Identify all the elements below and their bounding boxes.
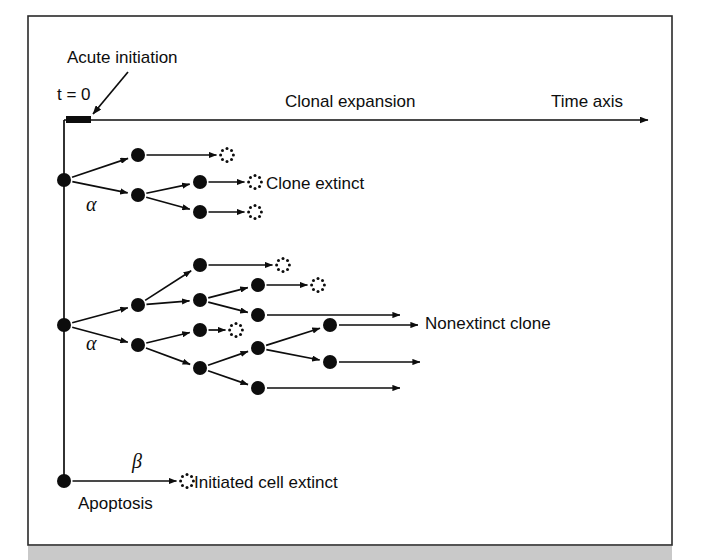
- extinct-dot: [226, 160, 229, 163]
- extinct-dot: [254, 204, 257, 207]
- extinct-dot: [258, 206, 261, 209]
- extinct-dot: [232, 154, 235, 157]
- extinct-dot: [230, 324, 233, 327]
- label-clone-extinct: Clone extinct: [266, 174, 365, 193]
- extinct-dot: [282, 257, 285, 260]
- cell-node: [251, 381, 265, 395]
- cell-node: [57, 173, 71, 187]
- cell-node: [193, 175, 207, 189]
- extinct-dot: [286, 268, 289, 271]
- cell-node: [193, 323, 207, 337]
- label-acute-initiation: Acute initiation: [67, 48, 178, 67]
- extinct-dot: [258, 215, 261, 218]
- extinct-dot: [190, 484, 193, 487]
- extinct-dot: [226, 147, 229, 150]
- cell-node: [251, 278, 265, 292]
- figure-root: Acute initiation t = 0 Clonal expansion …: [0, 0, 702, 560]
- extinct-dot: [235, 322, 238, 325]
- extinct-dot: [221, 149, 224, 152]
- extinct-dot: [258, 176, 261, 179]
- extinct-dot: [247, 181, 250, 184]
- extinct-dot: [219, 154, 222, 157]
- extinct-dot: [254, 174, 257, 177]
- label-apoptosis: Apoptosis: [78, 494, 153, 513]
- extinct-dot: [260, 181, 263, 184]
- extinct-dot: [321, 288, 324, 291]
- cell-node: [193, 205, 207, 219]
- extinct-dot: [312, 288, 315, 291]
- extinct-dot: [239, 324, 242, 327]
- acute-initiation-tick: [66, 116, 91, 123]
- extinct-dot: [310, 284, 313, 287]
- extinct-dot: [258, 185, 261, 188]
- extinct-dot: [254, 217, 257, 220]
- extinct-dot: [275, 264, 278, 267]
- extinct-dot: [317, 277, 320, 280]
- extinct-dot: [181, 484, 184, 487]
- cell-node: [131, 298, 145, 312]
- branching-process-diagram: Acute initiation t = 0 Clonal expansion …: [0, 0, 702, 560]
- cell-node: [251, 308, 265, 322]
- cell-node: [323, 355, 337, 369]
- extinct-dot: [186, 473, 189, 476]
- extinct-dot: [312, 279, 315, 282]
- extinct-dot: [323, 284, 326, 287]
- cell-node: [193, 293, 207, 307]
- cell-node: [251, 341, 265, 355]
- label-alpha-lower: α: [86, 332, 97, 354]
- label-nonextinct-clone: Nonextinct clone: [425, 314, 551, 333]
- extinct-dot: [181, 475, 184, 478]
- extinct-dot: [230, 149, 233, 152]
- label-initiated-cell-extinct: Initiated cell extinct: [194, 473, 338, 492]
- page-background: [0, 0, 702, 560]
- extinct-dot: [186, 486, 189, 489]
- scan-artifact-bar: [28, 546, 672, 560]
- label-alpha-upper: α: [86, 193, 97, 215]
- extinct-dot: [288, 264, 291, 267]
- extinct-dot: [249, 215, 252, 218]
- extinct-dot: [321, 279, 324, 282]
- extinct-dot: [179, 480, 182, 483]
- label-time-axis: Time axis: [551, 92, 623, 111]
- cell-node: [57, 318, 71, 332]
- extinct-dot: [190, 475, 193, 478]
- extinct-dot: [249, 176, 252, 179]
- extinct-dot: [254, 187, 257, 190]
- extinct-dot: [286, 259, 289, 262]
- extinct-dot: [230, 158, 233, 161]
- cell-node: [57, 474, 71, 488]
- extinct-dot: [249, 206, 252, 209]
- cell-node: [131, 338, 145, 352]
- label-beta: β: [131, 450, 142, 473]
- cell-node: [193, 361, 207, 375]
- extinct-dot: [230, 333, 233, 336]
- cell-node: [131, 148, 145, 162]
- extinct-dot: [282, 270, 285, 273]
- extinct-dot: [260, 211, 263, 214]
- label-t-zero: t = 0: [57, 85, 91, 104]
- cell-node: [193, 258, 207, 272]
- extinct-dot: [239, 333, 242, 336]
- label-clonal-expansion: Clonal expansion: [285, 92, 415, 111]
- extinct-dot: [221, 158, 224, 161]
- extinct-dot: [241, 329, 244, 332]
- extinct-dot: [247, 211, 250, 214]
- cell-node: [323, 318, 337, 332]
- extinct-dot: [228, 329, 231, 332]
- extinct-dot: [317, 290, 320, 293]
- extinct-dot: [277, 268, 280, 271]
- extinct-dot: [249, 185, 252, 188]
- cell-node: [131, 188, 145, 202]
- extinct-dot: [235, 335, 238, 338]
- extinct-dot: [277, 259, 280, 262]
